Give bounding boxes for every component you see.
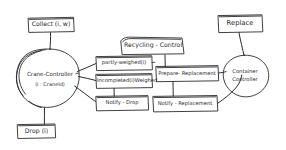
node-replace-shape[interactable]: [218, 15, 262, 33]
diagram-strokes: [0, 0, 286, 150]
node-crane-controller-shape[interactable]: [16, 49, 79, 108]
node-partly-weighed-shape[interactable]: [96, 56, 152, 71]
node-prepare-replacement-shape[interactable]: [156, 66, 219, 82]
node-notify-drop-shape[interactable]: [96, 96, 148, 111]
edge-collect-crane: [50, 33, 51, 50]
node-incompleted-weighed-shape[interactable]: [96, 74, 152, 89]
node-collect-shape[interactable]: [29, 17, 75, 32]
edge-crane-incompleted-weighed: [79, 77, 96, 81]
edge-prepare-container: [219, 72, 226, 73]
edge-crane-notify-drop: [75, 86, 96, 102]
edge-replace-container: [239, 33, 244, 56]
edge-crane-partly-weighed: [78, 64, 97, 72]
node-recycling-control-shape[interactable]: [121, 37, 184, 54]
edge-notify-replacement-container: [218, 75, 242, 103]
node-drop-shape[interactable]: [18, 124, 56, 139]
node-container-controller-shape[interactable]: [223, 55, 269, 97]
diagram-canvas: Collect (i, w) Crane-Controller (i : Cra…: [0, 0, 286, 150]
node-notify-replacement-shape[interactable]: [153, 96, 218, 112]
